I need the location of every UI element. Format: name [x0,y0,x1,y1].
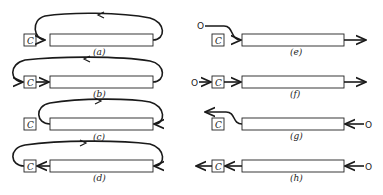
bar [50,160,153,172]
component-c-label: C [215,120,222,130]
panel-f: O C (f) [191,76,366,99]
panel-label: (e) [290,47,303,57]
bar [50,34,153,46]
component-c-label: C [215,162,222,172]
panel-b: C (b) [13,56,163,99]
bar [242,118,344,130]
bar [50,118,153,130]
panel-label: (b) [93,89,106,99]
panel-e: O C (e) [197,21,366,57]
panel-a: C (a) [24,12,162,57]
panel-label: (d) [93,173,106,183]
component-c-label: C [27,36,34,46]
panel-h: C O (h) [196,160,372,183]
component-c-label: C [27,78,34,88]
panel-label: (f) [290,89,301,99]
panel-g: C O (g) [205,112,372,141]
panel-d: C (d) [13,140,163,183]
panel-label: (a) [93,47,106,57]
source-o-label: O [191,78,198,88]
bar [242,76,344,88]
component-c-label: C [215,36,222,46]
component-c-label: C [215,78,222,88]
source-o-label: O [197,21,204,31]
panel-label: (g) [290,131,303,141]
panel-label: (h) [290,173,303,183]
source-o-label: O [365,120,372,130]
component-c-label: C [27,162,34,172]
bar [50,76,153,88]
panel-c: C (c) [24,98,163,142]
component-c-label: C [27,120,34,130]
diagram-canvas: C (a) C (b) C (c) C (d) O C [0,0,383,195]
bar [242,34,344,46]
source-o-label: O [365,162,372,172]
bar [242,160,344,172]
